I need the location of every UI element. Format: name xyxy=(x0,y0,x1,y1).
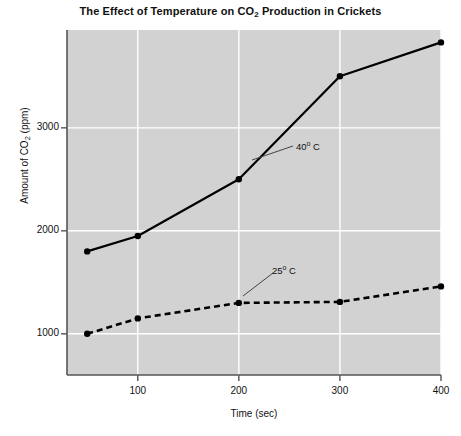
data-point-marker xyxy=(438,283,444,289)
series-annotation-25c-unit: C xyxy=(286,265,296,276)
data-point-marker xyxy=(84,331,90,337)
y-tick-label: 1000 xyxy=(15,327,59,338)
series-annotation-25c: 25o C xyxy=(272,264,296,276)
chart-figure: The Effect of Temperature on CO2 Product… xyxy=(0,0,461,436)
series-annotation-40c-number: 40 xyxy=(296,141,307,152)
series-annotation-40c: 40o C xyxy=(296,140,320,152)
data-point-marker xyxy=(337,299,343,305)
plot-area-background xyxy=(67,30,441,375)
plot-canvas xyxy=(0,0,461,436)
y-axis-title: Amount of CO2 (ppm) xyxy=(19,86,30,226)
data-point-marker xyxy=(337,73,343,79)
y-axis-title-subscript: 2 xyxy=(23,136,32,140)
data-point-marker xyxy=(236,300,242,306)
data-point-marker xyxy=(84,248,90,254)
x-axis-title: Time (sec) xyxy=(67,408,441,419)
y-axis-title-after: (ppm) xyxy=(19,107,30,136)
data-point-marker xyxy=(135,315,141,321)
series-annotation-25c-number: 25 xyxy=(272,265,283,276)
x-tick-label: 400 xyxy=(421,385,461,396)
data-point-marker xyxy=(236,176,242,182)
x-tick-label: 300 xyxy=(320,385,360,396)
data-point-marker xyxy=(135,233,141,239)
x-tick-label: 200 xyxy=(219,385,259,396)
x-tick-label: 100 xyxy=(118,385,158,396)
data-point-marker xyxy=(438,39,444,45)
y-axis-title-before: Amount of CO xyxy=(19,140,30,203)
series-annotation-40c-unit: C xyxy=(310,141,320,152)
